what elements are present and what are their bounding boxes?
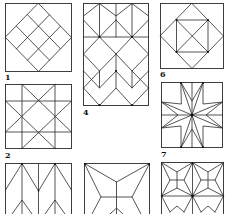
panel-label-4: 4 bbox=[83, 108, 89, 116]
panel-label-7: 7 bbox=[161, 150, 167, 158]
panel-label-1: 1 bbox=[5, 73, 11, 81]
panel-label-6: 6 bbox=[160, 70, 166, 78]
panel-3-chevrons bbox=[6, 163, 72, 214]
panel-9-star-tessellation bbox=[161, 162, 223, 214]
pattern-figure bbox=[0, 0, 225, 214]
panel-7-eight-point-star bbox=[162, 82, 223, 148]
panel-4-cube-tessellation bbox=[84, 4, 149, 107]
panel-6-diamond-square bbox=[161, 4, 224, 69]
panel-2-grid-diagonals bbox=[6, 85, 72, 149]
panel-label-2: 2 bbox=[5, 151, 11, 159]
panel-5-pinwheel bbox=[84, 163, 150, 214]
panel-1-diamond-grid bbox=[6, 4, 72, 72]
